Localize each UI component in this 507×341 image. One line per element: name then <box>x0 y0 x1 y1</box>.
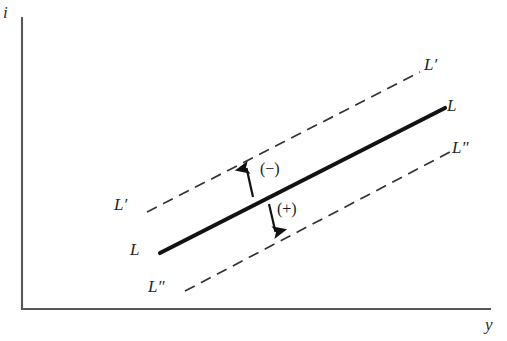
y-axis-label: i <box>3 4 8 21</box>
shift-up-arrow <box>247 168 254 197</box>
curve-label-l-double-prime-left: L″ <box>148 278 165 295</box>
shift-up-sign-label: (−) <box>260 161 280 177</box>
curve-label-l-right: L <box>447 97 456 114</box>
curve-l <box>160 108 445 253</box>
shift-down-arrow <box>269 204 276 232</box>
axes-group <box>22 18 490 309</box>
shift-down-sign-label: (+) <box>277 201 297 217</box>
diagram-canvas <box>0 0 507 341</box>
x-axis-label: y <box>485 316 493 333</box>
curve-label-l-prime-right: L′ <box>424 56 437 73</box>
curve-label-l-double-prime-right: L″ <box>452 139 469 156</box>
lm-curve-diagram: i y L′ L L″ L′ L L″ (−) (+) <box>0 0 507 341</box>
curves-group <box>147 72 450 291</box>
curve-label-l-left: L <box>130 241 139 258</box>
curve-label-l-prime-left: L′ <box>114 196 127 213</box>
